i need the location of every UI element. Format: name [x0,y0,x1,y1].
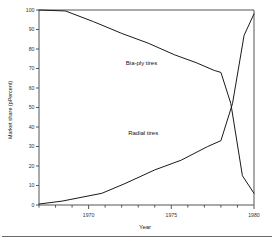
y-tick-label: 30 [29,143,35,149]
y-tick-label: 60 [29,85,35,91]
series-label-radial-tires: Radial tires [128,130,158,136]
y-tick-label: 10 [29,182,35,188]
y-axis-title: Market share (pPercent) [7,81,13,139]
x-tick-label: 1980 [248,212,260,218]
x-axis-tick-labels: 197019751980 [83,212,260,218]
series-label-bia-ply-tires: Bia-ply tires [126,60,157,66]
y-tick-label: 40 [29,124,35,130]
x-axis-ticks [39,205,254,209]
series-lines [39,10,254,204]
line-chart: 0102030405060708090100 197019751980 Bia-… [0,0,274,242]
y-axis-tick-labels: 0102030405060708090100 [26,7,35,208]
chart-figure: 0102030405060708090100 197019751980 Bia-… [0,0,274,242]
y-tick-label: 70 [29,65,35,71]
x-tick-label: 1970 [83,212,95,218]
series-annotations: Bia-ply tiresRadial tires [126,60,158,136]
y-tick-label: 90 [29,26,35,32]
y-tick-label: 80 [29,46,35,52]
x-axis-title: Year [139,224,151,230]
y-tick-label: 0 [32,202,35,208]
plot-frame [39,10,254,205]
y-tick-label: 50 [29,104,35,110]
series-line-bia-ply-tires [39,10,254,193]
y-tick-label: 100 [26,7,35,13]
y-tick-label: 20 [29,163,35,169]
x-tick-label: 1975 [166,212,178,218]
